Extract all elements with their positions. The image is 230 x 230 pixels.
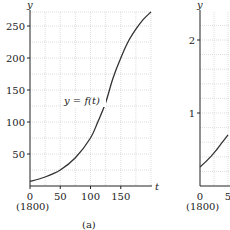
svg-text:5: 5: [225, 191, 230, 202]
svg-text:50: 50: [54, 191, 67, 202]
svg-text:1: 1: [189, 108, 195, 119]
x-origin-note: (1800): [16, 201, 49, 212]
tick-marks: [27, 26, 121, 189]
svg-text:50: 50: [12, 149, 25, 160]
svg-text:150: 150: [111, 191, 130, 202]
svg-text:100: 100: [81, 191, 100, 202]
grid-lines: [200, 12, 230, 186]
y-axis-label: y: [196, 0, 203, 10]
svg-text:100: 100: [6, 117, 25, 128]
panel-a: y t y = f(t) 50100150200250 050100150 (1…: [6, 0, 160, 230]
svg-text:2: 2: [189, 35, 195, 46]
svg-text:250: 250: [6, 21, 25, 32]
svg-text:200: 200: [6, 53, 25, 64]
x-origin-note: (1800): [186, 201, 219, 212]
curve-label: y = f(t): [63, 95, 100, 106]
chart-canvas: y t y = f(t) 50100150200250 050100150 (1…: [0, 0, 230, 230]
svg-text:150: 150: [6, 85, 25, 96]
y-axis-label: y: [26, 0, 33, 10]
panel-b: y 12 05 (1800): [186, 0, 230, 212]
panel-label: (a): [82, 219, 96, 230]
x-axis-label: t: [155, 181, 160, 192]
y-tick-labels: 12: [189, 35, 195, 119]
y-tick-labels: 50100150200250: [6, 21, 25, 160]
